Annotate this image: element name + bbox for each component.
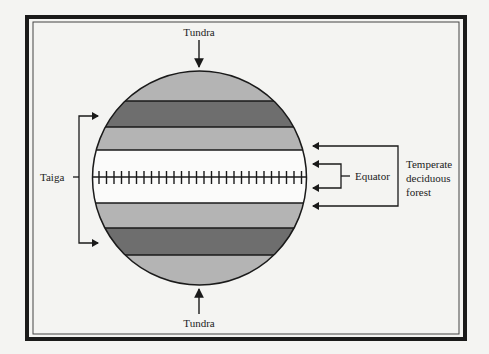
- temperate-arrow-south: [312, 202, 319, 210]
- equator-label: Equator: [355, 170, 390, 182]
- temperate-label-line3: forest: [406, 186, 431, 198]
- equator-arrow-south: [312, 184, 319, 192]
- globe-bands: [90, 68, 310, 290]
- temperate-label-line1: Temperate: [406, 158, 452, 170]
- temperate-label-line2: deciduous: [406, 172, 451, 184]
- taiga-arrow-north: [92, 112, 99, 120]
- biome-diagram: Tundra Tundra Taiga Equator Temperate de…: [0, 0, 489, 354]
- temperate-arrow-north: [312, 142, 319, 150]
- equator-arrow-north: [312, 160, 319, 168]
- taiga-label: Taiga: [40, 171, 64, 183]
- band-tundra-north: [90, 68, 310, 101]
- tundra-bottom-label: Tundra: [183, 317, 214, 329]
- band-temperate-north: [90, 127, 310, 150]
- tundra-top-label: Tundra: [183, 26, 214, 38]
- band-temperate-south: [90, 203, 310, 228]
- taiga-arrow-south: [92, 239, 99, 247]
